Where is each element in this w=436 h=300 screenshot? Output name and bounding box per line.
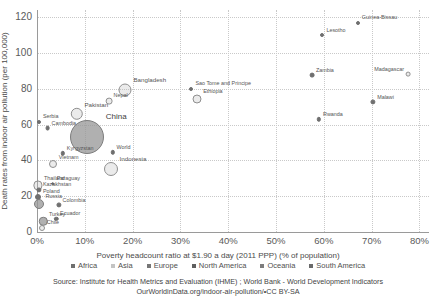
- data-point-label: Guinea-Bissau: [362, 14, 397, 20]
- data-point-label: Zambia: [316, 67, 334, 73]
- legend-item[interactable]: Europe: [147, 262, 178, 270]
- data-point-bubble[interactable]: [406, 72, 411, 77]
- legend-swatch-icon: [147, 264, 151, 268]
- x-axis-line: [37, 232, 429, 233]
- gridline-vertical: [276, 10, 277, 232]
- data-point-label: World: [117, 144, 131, 150]
- legend-swatch-icon: [309, 264, 313, 268]
- data-point-label: Ethiopia: [203, 88, 222, 94]
- gridline-horizontal: [37, 53, 429, 54]
- data-point-label: China: [106, 114, 127, 120]
- gridline-vertical: [324, 10, 325, 232]
- data-point-bubble[interactable]: [56, 203, 61, 208]
- x-tick-label: 10%: [75, 236, 94, 246]
- data-point-bubble[interactable]: [70, 108, 82, 120]
- data-point-label: Kyrgyzstan: [67, 145, 94, 151]
- data-point-bubble[interactable]: [49, 160, 57, 168]
- gridline-vertical: [133, 10, 134, 232]
- data-point-label: Lesotho: [326, 27, 345, 33]
- data-point-label: Thailand: [44, 175, 65, 181]
- x-tick-label: 60%: [314, 236, 333, 246]
- x-tick-label: 0%: [30, 236, 44, 246]
- data-point-label: Cambodia: [52, 120, 77, 126]
- legend-swatch-icon: [71, 264, 75, 268]
- data-point-bubble[interactable]: [309, 73, 314, 78]
- legend-item[interactable]: Asia: [111, 262, 133, 270]
- y-tick-label: 100: [15, 48, 32, 58]
- x-tick-label: 40%: [219, 236, 238, 246]
- y-tick-label: 20: [21, 191, 32, 201]
- x-tick-label: 30%: [171, 236, 190, 246]
- data-point-label: Sao Tome and Principe: [195, 80, 251, 86]
- data-point-label: Pakistan: [84, 102, 108, 108]
- data-point-label: Malawi: [377, 94, 394, 100]
- gridline-vertical: [228, 10, 229, 232]
- data-point-label: Rwanda: [323, 111, 343, 117]
- gridline-horizontal: [37, 196, 429, 197]
- legend-item[interactable]: South America: [309, 262, 365, 270]
- x-tick-label: 20%: [123, 236, 142, 246]
- legend-swatch-icon: [260, 264, 264, 268]
- gridline-vertical: [419, 10, 420, 232]
- data-point-bubble[interactable]: [317, 117, 321, 121]
- data-point-label: Colombia: [63, 197, 86, 203]
- legend-item[interactable]: North America: [192, 262, 247, 270]
- data-point-bubble[interactable]: [320, 33, 324, 37]
- data-point-bubble[interactable]: [45, 126, 50, 131]
- data-point-label: Serbia: [43, 113, 59, 119]
- y-tick-label: 40: [21, 155, 32, 165]
- y-axis-title: Death rates from indoor air pollution (p…: [0, 10, 10, 232]
- legend-label: South America: [316, 262, 365, 270]
- legend: AfricaAsiaEuropeNorth AmericaOceaniaSout…: [0, 262, 436, 270]
- data-point-label: Madagascar: [374, 66, 404, 72]
- data-point-bubble[interactable]: [104, 162, 118, 176]
- data-point-bubble[interactable]: [37, 120, 41, 124]
- data-point-bubble[interactable]: [39, 225, 45, 231]
- legend-label: Oceania: [267, 262, 295, 270]
- x-tick-label: 70%: [362, 236, 381, 246]
- legend-swatch-icon: [111, 264, 115, 268]
- gridline-horizontal: [37, 89, 429, 90]
- data-point-bubble[interactable]: [36, 187, 41, 192]
- gridline-vertical: [180, 10, 181, 232]
- attribution-text: OurWorldinData.org/indoor-air-pollution/…: [0, 287, 436, 297]
- source-text: Source: Institute for Health Metrics and…: [0, 277, 436, 287]
- y-tick-label: 120: [15, 12, 32, 22]
- data-point-bubble[interactable]: [356, 21, 360, 25]
- legend-label: Africa: [78, 262, 97, 270]
- data-point-label: Kazakhstan: [43, 181, 71, 187]
- gridline-horizontal: [37, 160, 429, 161]
- data-point-bubble[interactable]: [34, 199, 44, 209]
- x-tick-label: 80%: [410, 236, 429, 246]
- data-point-label: Chile: [47, 219, 59, 225]
- legend-label: Europe: [154, 262, 178, 270]
- data-point-bubble[interactable]: [193, 94, 202, 103]
- data-point-bubble[interactable]: [189, 87, 193, 91]
- data-point-label: Russia: [45, 193, 61, 199]
- x-axis-title: Poverty headcount ratio at $1.90 a day (…: [0, 251, 436, 260]
- legend-swatch-icon: [192, 264, 196, 268]
- chart-root: Death rates from indoor air pollution (p…: [0, 0, 436, 300]
- data-point-label: Vietnam: [59, 154, 79, 160]
- data-point-bubble[interactable]: [370, 100, 375, 105]
- legend-item[interactable]: Africa: [71, 262, 97, 270]
- data-point-label: Ecuador: [60, 210, 80, 216]
- legend-label: North America: [199, 262, 247, 270]
- data-point-label: Nepal: [114, 92, 128, 98]
- data-point-bubble[interactable]: [110, 150, 114, 154]
- y-axis-title-text: Death rates from indoor air pollution (p…: [0, 32, 9, 209]
- gridline-vertical: [372, 10, 373, 232]
- y-tick-label: 60: [21, 120, 32, 130]
- plot-area: 020406080100120 0%10%20%30%40%50%60%70%8…: [37, 10, 429, 232]
- legend-label: Asia: [118, 262, 133, 270]
- y-tick-label: 80: [21, 84, 32, 94]
- x-tick-label: 50%: [267, 236, 286, 246]
- footer: Source: Institute for Health Metrics and…: [0, 277, 436, 297]
- data-point-label: Bangladesh: [133, 77, 166, 83]
- data-point-label: Indonesia: [120, 156, 147, 162]
- legend-item[interactable]: Oceania: [260, 262, 295, 270]
